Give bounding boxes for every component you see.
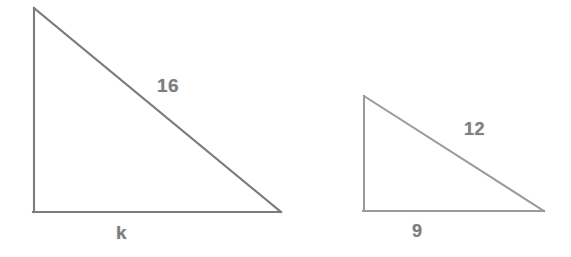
- large-triangle-hypotenuse: [34, 8, 281, 212]
- large-triangle-hypotenuse-label: 16: [157, 76, 179, 95]
- large-triangle-base-label: k: [116, 223, 127, 242]
- triangles-drawing: [0, 0, 571, 257]
- small-triangle-hypotenuse-label: 12: [464, 120, 485, 139]
- large-triangle: [33, 8, 281, 212]
- geometry-figure: 16 k 12 9: [0, 0, 571, 257]
- small-triangle-base-label: 9: [412, 222, 423, 241]
- small-triangle: [363, 96, 544, 211]
- small-triangle-hypotenuse: [364, 96, 544, 211]
